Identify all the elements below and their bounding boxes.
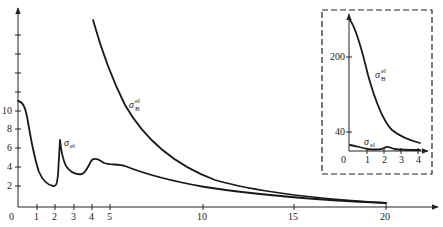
inset-sigma-el-curve bbox=[350, 145, 420, 150]
inset-x-label-4: 4 bbox=[416, 154, 421, 165]
x-tick-label-5: 5 bbox=[107, 211, 112, 222]
inset-x-label-3: 3 bbox=[399, 154, 404, 165]
y-tick-label-10: 10 bbox=[2, 105, 12, 116]
svg-text:B: B bbox=[381, 75, 386, 83]
y-tick-label-4: 4 bbox=[7, 161, 12, 172]
x-tick-label-10: 10 bbox=[197, 211, 207, 222]
x-tick-label-1: 1 bbox=[34, 211, 39, 222]
x-tick-label-4: 4 bbox=[89, 211, 94, 222]
label-sigma-b-el: σ B el bbox=[129, 97, 140, 113]
main-curves bbox=[18, 20, 386, 203]
x-tick-label-3: 3 bbox=[71, 211, 76, 222]
inset-chart: 200 40 0 1 2 3 4 σ B el σ el bbox=[322, 10, 432, 174]
sigma-el-curve bbox=[18, 101, 386, 203]
inset-y-label-200: 200 bbox=[330, 51, 345, 62]
y-tick-label-6: 6 bbox=[7, 142, 12, 153]
svg-text:el: el bbox=[381, 67, 386, 75]
y-tick-label-8: 8 bbox=[7, 123, 12, 134]
svg-text:el: el bbox=[135, 97, 140, 105]
inset-y-label-40: 40 bbox=[335, 126, 345, 137]
y-tick-label-2: 2 bbox=[7, 180, 12, 191]
x-tick-label-0: 0 bbox=[9, 211, 14, 222]
inset-label-sigma-el: σ el bbox=[364, 136, 375, 149]
inset-x-label-0: 0 bbox=[341, 154, 346, 165]
chart-canvas: 0 1 2 3 4 5 10 15 20 2 4 6 8 10 σ el σ B… bbox=[0, 0, 443, 227]
inset-x-label-2: 2 bbox=[382, 154, 387, 165]
inset-x-label-1: 1 bbox=[365, 154, 370, 165]
label-sigma-el: σ el bbox=[64, 137, 75, 150]
x-tick-label-15: 15 bbox=[288, 211, 298, 222]
x-tick-label-20: 20 bbox=[380, 211, 390, 222]
x-tick-label-2: 2 bbox=[52, 211, 57, 222]
svg-text:el: el bbox=[370, 141, 375, 149]
svg-text:el: el bbox=[70, 142, 75, 150]
inset-label-sigma-b-el: σ B el bbox=[375, 67, 386, 83]
svg-text:B: B bbox=[135, 105, 140, 113]
